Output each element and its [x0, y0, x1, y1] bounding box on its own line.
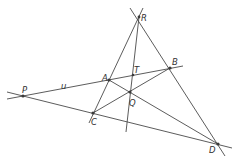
- line-RD: [130, 8, 225, 156]
- label-Q: Q: [129, 98, 136, 108]
- point-D: [216, 142, 219, 145]
- segment-AD: [109, 80, 218, 144]
- line-PD: [7, 92, 232, 148]
- label-D: D: [209, 145, 216, 155]
- label-u: u: [61, 81, 66, 91]
- point-R: [138, 16, 141, 19]
- point-Q: [128, 90, 131, 93]
- label-A: A: [101, 73, 108, 83]
- label-R: R: [141, 13, 147, 23]
- diagram-svg: R B A T Q C P u D: [0, 0, 239, 161]
- line-u-PB: [7, 66, 183, 99]
- label-T: T: [134, 65, 140, 75]
- geometry-diagram: R B A T Q C P u D: [0, 0, 239, 161]
- point-A: [107, 78, 110, 81]
- label-B: B: [172, 57, 178, 67]
- label-P: P: [22, 85, 28, 95]
- point-C: [91, 111, 94, 114]
- label-C: C: [91, 117, 97, 127]
